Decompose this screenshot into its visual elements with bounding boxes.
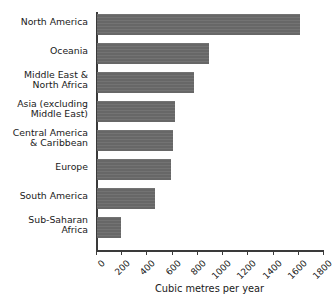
category-label-sub-saharan-africa: Sub-Saharan Africa bbox=[0, 215, 88, 236]
x-tick-1600 bbox=[298, 250, 299, 255]
x-tick-200 bbox=[121, 250, 122, 255]
category-label-oceania: Oceania bbox=[0, 46, 88, 56]
x-tick-600 bbox=[172, 250, 173, 255]
category-label-central-america-caribbean: Central America & Caribbean bbox=[0, 128, 88, 149]
x-axis-title: Cubic metres per year bbox=[96, 283, 323, 294]
bar-middle-east-north-africa bbox=[97, 72, 194, 93]
bar-north-america bbox=[97, 14, 300, 35]
bar-south-america bbox=[97, 188, 155, 209]
bar-oceania bbox=[97, 43, 209, 64]
bar-asia-excluding-middle-east bbox=[97, 101, 175, 122]
category-label-north-america: North America bbox=[0, 17, 88, 27]
x-tick-1200 bbox=[247, 250, 248, 255]
x-axis-line bbox=[96, 250, 323, 252]
x-tick-400 bbox=[146, 250, 147, 255]
x-tick-1800 bbox=[323, 250, 324, 255]
x-tick-800 bbox=[197, 250, 198, 255]
category-label-asia-excluding-middle-east: Asia (excluding Middle East) bbox=[0, 99, 88, 120]
x-tick-1400 bbox=[273, 250, 274, 255]
x-tick-1000 bbox=[222, 250, 223, 255]
bar-europe bbox=[97, 159, 171, 180]
x-tick-0 bbox=[96, 250, 97, 255]
category-label-middle-east-north-africa: Middle East & North Africa bbox=[0, 70, 88, 91]
bar-sub-saharan-africa bbox=[97, 217, 121, 238]
plot-area: 020040060080010001200140016001800 bbox=[96, 12, 323, 250]
category-label-south-america: South America bbox=[0, 191, 88, 201]
bar-central-america-caribbean bbox=[97, 130, 173, 151]
category-label-europe: Europe bbox=[0, 162, 88, 172]
